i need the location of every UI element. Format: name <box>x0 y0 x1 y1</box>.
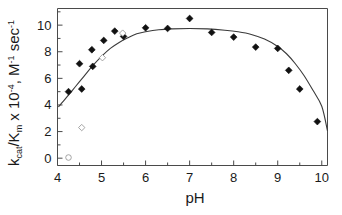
y-tick-label: 10 <box>37 18 51 33</box>
x-tick-label: 4 <box>54 170 61 185</box>
y-label-exp-minus4: -4 <box>6 84 16 92</box>
x-tick-label: 8 <box>230 170 237 185</box>
x-tick-label: 7 <box>186 170 193 185</box>
x-tick-label: 9 <box>274 170 281 185</box>
data-point-open-circle <box>66 155 72 161</box>
y-label-sec: sec <box>5 27 22 51</box>
y-tick-label: 6 <box>44 71 51 86</box>
y-tick-label: 8 <box>44 44 51 59</box>
y-label-slash-K: /K <box>5 132 22 146</box>
x-tick-label: 5 <box>98 170 105 185</box>
y-label-times-ten: x 10 <box>5 92 22 125</box>
y-label-m-sub: m <box>14 125 24 133</box>
y-axis-title-text: kcat/Km x 10-4, M-1 sec-1 <box>5 20 24 166</box>
ph-rate-profile-chart: 45678910 0246810 pH kcat/Km x 10-4, M-1 … <box>0 0 342 215</box>
y-tick-label: 0 <box>44 151 51 166</box>
y-label-cat-sub: cat <box>14 146 24 159</box>
y-label-exp-minus1-b: -1 <box>6 20 16 28</box>
x-tick-label: 6 <box>142 170 149 185</box>
chart-figure: 45678910 0246810 pH kcat/Km x 10-4, M-1 … <box>0 0 342 215</box>
y-tick-label: 2 <box>44 124 51 139</box>
y-tick-label: 4 <box>44 97 51 112</box>
y-axis-title: kcat/Km x 10-4, M-1 sec-1 <box>5 20 24 166</box>
x-tick-label: 10 <box>315 170 329 185</box>
x-axis-title: pH <box>185 189 204 206</box>
series-open-circle-data <box>66 155 72 161</box>
y-label-exp-minus1-a: -1 <box>6 55 16 63</box>
y-label-units-M: , M <box>5 63 22 84</box>
